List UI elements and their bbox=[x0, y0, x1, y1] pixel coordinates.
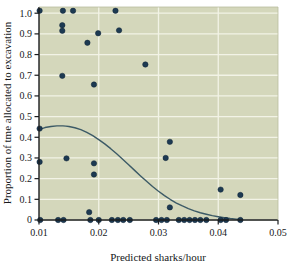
x-axis-title: Predicted sharks/hour bbox=[110, 251, 206, 263]
data-point bbox=[91, 172, 96, 177]
figure-container: 0.010.020.030.040.05 00.10.20.30.40.50.6… bbox=[0, 0, 294, 266]
data-point bbox=[218, 187, 223, 192]
x-tick-label: 0.01 bbox=[30, 227, 48, 238]
y-tick-label: 0.5 bbox=[20, 111, 33, 122]
x-tick-label: 0.02 bbox=[90, 227, 108, 238]
data-point bbox=[60, 8, 65, 13]
data-point bbox=[85, 40, 90, 45]
data-point bbox=[86, 209, 91, 214]
y-tick-label: 0.2 bbox=[20, 173, 33, 184]
y-axis-title: Proportion of tme allocated to excavatio… bbox=[1, 21, 13, 204]
y-tick-label: 0.8 bbox=[20, 49, 33, 60]
data-point bbox=[60, 28, 65, 33]
y-tick-label: 0.1 bbox=[20, 194, 33, 205]
data-point bbox=[143, 62, 148, 67]
y-tick-label: 1.0 bbox=[20, 8, 33, 19]
data-point bbox=[95, 31, 100, 36]
data-point bbox=[91, 82, 96, 87]
data-point bbox=[113, 8, 118, 13]
y-tick-label: 0.9 bbox=[20, 28, 33, 39]
data-point bbox=[163, 155, 168, 160]
data-point bbox=[238, 192, 243, 197]
y-tick-label: 0 bbox=[27, 214, 32, 225]
data-point bbox=[116, 28, 121, 33]
data-point bbox=[64, 156, 69, 161]
y-tick-label: 0.6 bbox=[20, 90, 33, 101]
data-point bbox=[167, 139, 172, 144]
scatter-plot: 0.010.020.030.040.05 00.10.20.30.40.50.6… bbox=[0, 0, 294, 266]
y-tick-label: 0.7 bbox=[20, 70, 33, 81]
data-point bbox=[60, 23, 65, 28]
data-point bbox=[91, 161, 96, 166]
x-tick-label: 0.03 bbox=[150, 227, 168, 238]
data-point bbox=[70, 8, 75, 13]
data-point bbox=[60, 73, 65, 78]
x-tick-label: 0.05 bbox=[269, 227, 287, 238]
y-tick-label: 0.3 bbox=[20, 152, 33, 163]
data-point bbox=[167, 205, 172, 210]
y-tick-label: 0.4 bbox=[20, 132, 33, 143]
x-tick-label: 0.04 bbox=[210, 227, 228, 238]
